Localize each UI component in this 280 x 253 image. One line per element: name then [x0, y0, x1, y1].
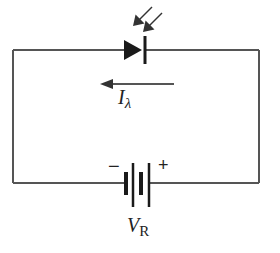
- battery-negative-sign: −: [108, 155, 120, 178]
- light-arrows-icon: [134, 7, 162, 31]
- battery-symbol: [126, 163, 149, 207]
- circuit-wires: [13, 50, 259, 183]
- current-symbol: I: [118, 86, 125, 108]
- current-subscript: λ: [125, 95, 132, 111]
- current-arrow: [100, 79, 174, 89]
- current-label: Iλ: [118, 86, 131, 109]
- voltage-symbol: V: [127, 214, 139, 236]
- battery-positive-sign: +: [158, 155, 169, 176]
- voltage-subscript: R: [139, 223, 149, 239]
- photodiode-symbol: [124, 36, 145, 64]
- diode-triangle: [124, 40, 142, 60]
- voltage-label: VR: [127, 214, 149, 237]
